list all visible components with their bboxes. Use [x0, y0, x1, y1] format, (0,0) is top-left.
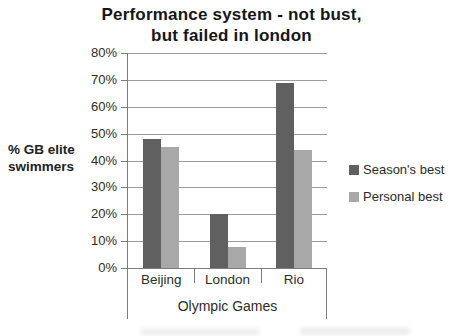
- y-tick-label-40pct: 40%: [0, 152, 117, 170]
- y-tick-label-70pct: 70%: [0, 71, 117, 89]
- legend-item-personal-best: Personal best: [349, 189, 444, 204]
- chart-title: Performance system - not bust, but faile…: [0, 4, 463, 46]
- bar-beijing-personal-best: [161, 147, 179, 268]
- x-axis-line: [127, 268, 327, 269]
- category-label-beijing: Beijing: [128, 270, 194, 290]
- category-label-london: London: [194, 270, 260, 290]
- bar-rio-season-s-best: [276, 83, 294, 268]
- bar-beijing-season-s-best: [143, 139, 161, 268]
- bar-london-season-s-best: [210, 214, 228, 268]
- y-tick-label-50pct: 50%: [0, 125, 117, 143]
- legend: Season's bestPersonal best: [349, 162, 444, 204]
- bar-chart: Performance system - not bust, but faile…: [0, 0, 463, 336]
- y-tick-label-20pct: 20%: [0, 205, 117, 223]
- gridline-80pct: [128, 53, 327, 54]
- legend-label: Personal best: [363, 189, 443, 204]
- bar-rio-personal-best: [294, 150, 312, 268]
- y-tick-label-0pct: 0%: [0, 259, 117, 277]
- category-label-rio: Rio: [261, 270, 327, 290]
- gridline-50pct: [128, 134, 327, 135]
- gridline-70pct: [128, 80, 327, 81]
- scan-artifact: [300, 328, 410, 335]
- bar-london-personal-best: [228, 247, 246, 269]
- y-tick-label-60pct: 60%: [0, 98, 117, 116]
- chart-title-line1: Performance system - not bust,: [0, 4, 463, 25]
- legend-marker-personal-best: [349, 192, 359, 202]
- plot-area: [128, 53, 327, 268]
- scan-artifact: [140, 329, 260, 335]
- legend-marker-season-s-best: [349, 165, 359, 175]
- gridline-60pct: [128, 107, 327, 108]
- chart-title-line2: but failed in london: [0, 25, 463, 46]
- x-axis-title: Olympic Games: [128, 298, 327, 314]
- y-tick-label-10pct: 10%: [0, 232, 117, 250]
- y-tick-label-80pct: 80%: [0, 44, 117, 62]
- legend-item-season-s-best: Season's best: [349, 162, 444, 177]
- y-tick-label-30pct: 30%: [0, 178, 117, 196]
- legend-label: Season's best: [363, 162, 444, 177]
